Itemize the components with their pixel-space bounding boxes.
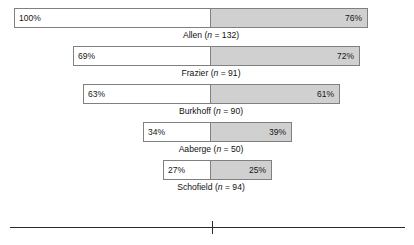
bar-segment-right: 25%	[210, 160, 272, 180]
bar-segment-right: 61%	[210, 84, 340, 104]
study-label-suffix: = 91)	[218, 68, 240, 78]
study-label-prefix: Frazier (	[182, 68, 214, 78]
bar-value-right: 39%	[269, 128, 291, 137]
paired-bar-chart: 100% 76% Allen (n = 132) 69% 72% Frazier…	[0, 0, 414, 245]
study-label-prefix: Aaberge (	[179, 144, 217, 154]
bar-segment-right: 76%	[210, 8, 368, 28]
x-axis-line	[10, 227, 405, 228]
bar-row: 63% 61%	[83, 84, 340, 104]
bar-segment-left: 63%	[83, 84, 211, 104]
study-label: Frazier (n = 91)	[0, 69, 414, 78]
bar-segment-left: 27%	[163, 160, 211, 180]
bar-row: 100% 76%	[14, 8, 368, 28]
bar-segment-left: 34%	[143, 122, 211, 142]
bar-segment-left: 100%	[14, 8, 211, 28]
bar-value-right: 72%	[337, 52, 359, 61]
bar-value-right: 76%	[345, 14, 367, 23]
bar-value-right: 25%	[249, 166, 271, 175]
bar-row: 34% 39%	[143, 122, 292, 142]
bar-value-left: 27%	[164, 166, 185, 175]
x-axis-center-tick	[212, 221, 213, 234]
bar-segment-right: 72%	[210, 46, 360, 66]
study-label-prefix: Allen (	[183, 30, 207, 40]
bar-segment-left: 69%	[73, 46, 211, 66]
bar-row: 27% 25%	[163, 160, 272, 180]
bar-segment-right: 39%	[210, 122, 292, 142]
study-label: Burkhoff (n = 90)	[0, 107, 414, 116]
study-label-prefix: Burkhoff (	[179, 106, 216, 116]
study-label-prefix: Schofield (	[177, 182, 218, 192]
bar-value-left: 34%	[144, 128, 165, 137]
study-label: Schofield (n = 94)	[0, 183, 414, 192]
study-label-suffix: = 50)	[221, 144, 243, 154]
study-label: Aaberge (n = 50)	[0, 145, 414, 154]
study-label-suffix: = 90)	[221, 106, 243, 116]
study-label: Allen (n = 132)	[0, 31, 414, 40]
bar-value-left: 69%	[74, 52, 95, 61]
study-label-suffix: = 132)	[212, 30, 239, 40]
bar-row: 69% 72%	[73, 46, 360, 66]
bar-value-right: 61%	[317, 90, 339, 99]
bar-value-left: 100%	[15, 14, 41, 23]
bar-value-left: 63%	[84, 90, 105, 99]
study-label-suffix: = 94)	[223, 182, 245, 192]
